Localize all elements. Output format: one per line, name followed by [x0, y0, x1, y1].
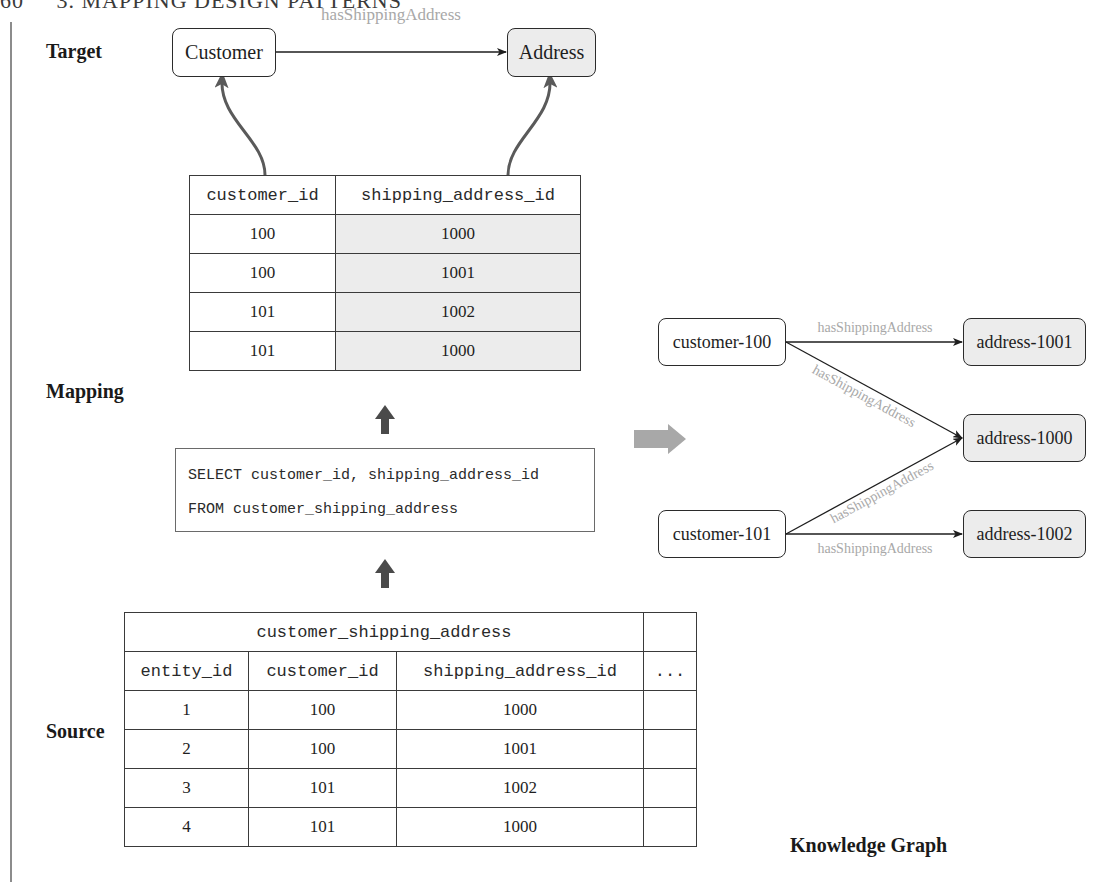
- kg-node-address-1000: address-1000: [963, 414, 1086, 462]
- kg-node-address-1001: address-1001: [963, 318, 1086, 366]
- cell: 100: [249, 730, 397, 769]
- cell: [644, 769, 697, 808]
- table-row: 101 1000: [190, 332, 581, 371]
- header-shipping-address-id: shipping_address_id: [336, 176, 581, 215]
- table-row: 1 100 1000: [125, 691, 697, 730]
- cell: 1: [125, 691, 249, 730]
- kg-edge-c101-a1000: [786, 438, 962, 534]
- kg-node-customer-101: customer-101: [658, 510, 786, 558]
- customer-class-label: Customer: [185, 41, 263, 64]
- header-shipping-address-id: shipping_address_id: [397, 652, 644, 691]
- cell: 100: [249, 691, 397, 730]
- sql-line-2: FROM customer_shipping_address: [188, 493, 582, 527]
- source-table: customer_shipping_address entity_id cust…: [124, 612, 697, 847]
- header-ellipsis: ...: [644, 652, 697, 691]
- table-row: 3 101 1002: [125, 769, 697, 808]
- cell: 101: [190, 293, 336, 332]
- cell: [644, 613, 697, 652]
- header-customer-id: customer_id: [249, 652, 397, 691]
- kg-node-address-1002: address-1002: [963, 510, 1086, 558]
- cell: 1001: [336, 254, 581, 293]
- address-class-node: Address: [507, 28, 596, 77]
- cell: [644, 808, 697, 847]
- mapping-result-table: customer_id shipping_address_id 100 1000…: [189, 175, 581, 371]
- cell: 1000: [397, 808, 644, 847]
- customer-id-to-customer-arrow: [222, 80, 265, 175]
- cell: 1002: [336, 293, 581, 332]
- cell: 1002: [397, 769, 644, 808]
- kg-edge-label-3: hasShippingAddress: [828, 458, 936, 526]
- table-row: 4 101 1000: [125, 808, 697, 847]
- address-class-label: Address: [519, 41, 585, 64]
- kg-node-label: address-1000: [977, 428, 1073, 449]
- kg-node-label: address-1001: [977, 332, 1073, 353]
- kg-node-label: customer-101: [673, 524, 772, 545]
- kg-node-label: address-1002: [977, 524, 1073, 545]
- address-id-to-address-arrow: [508, 80, 550, 175]
- source-table-header-row: entity_id customer_id shipping_address_i…: [125, 652, 697, 691]
- cell: 3: [125, 769, 249, 808]
- cell: 100: [190, 215, 336, 254]
- kg-node-customer-100: customer-100: [658, 318, 786, 366]
- table-row: 100 1001: [190, 254, 581, 293]
- transform-arrow: [634, 424, 686, 454]
- cell: 101: [249, 769, 397, 808]
- table-row: 2 100 1001: [125, 730, 697, 769]
- cell: 1000: [336, 332, 581, 371]
- table-row: 101 1002: [190, 293, 581, 332]
- cell: 100: [190, 254, 336, 293]
- kg-edge-c100-a1000: [786, 342, 962, 438]
- source-table-name: customer_shipping_address: [125, 613, 644, 652]
- cell: [644, 730, 697, 769]
- kg-edge-label-4: hasShippingAddress: [817, 541, 932, 556]
- mapping-table-header-row: customer_id shipping_address_id: [190, 176, 581, 215]
- source-table-title-row: customer_shipping_address: [125, 613, 697, 652]
- kg-edge-label-1: hasShippingAddress: [817, 320, 932, 335]
- cell: [644, 691, 697, 730]
- cell: 101: [190, 332, 336, 371]
- cell: 101: [249, 808, 397, 847]
- kg-edge-label-2: hasShippingAddress: [810, 362, 918, 430]
- cell: 1000: [397, 691, 644, 730]
- cell: 2: [125, 730, 249, 769]
- cell: 1001: [397, 730, 644, 769]
- sql-line-1: SELECT customer_id, shipping_address_id: [188, 459, 582, 493]
- sql-to-table-arrow: [375, 405, 395, 434]
- cell: 4: [125, 808, 249, 847]
- source-to-sql-arrow: [375, 559, 395, 588]
- target-edge-label: hasShippingAddress: [321, 5, 461, 24]
- sql-query-box: SELECT customer_id, shipping_address_idF…: [175, 448, 595, 532]
- header-customer-id: customer_id: [190, 176, 336, 215]
- kg-node-label: customer-100: [673, 332, 772, 353]
- header-entity-id: entity_id: [125, 652, 249, 691]
- cell: 1000: [336, 215, 581, 254]
- table-row: 100 1000: [190, 215, 581, 254]
- customer-class-node: Customer: [172, 28, 276, 77]
